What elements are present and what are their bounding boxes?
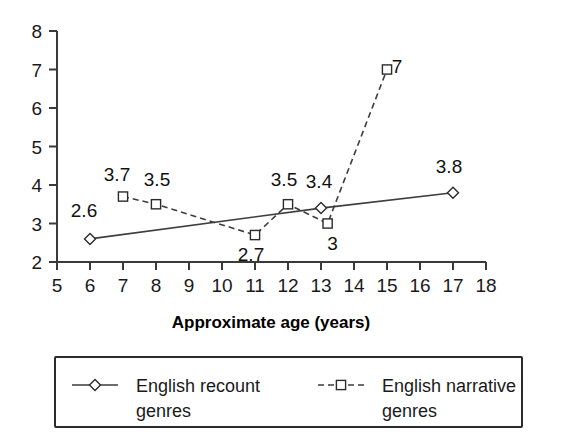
- data-point-value-label: 3.4: [306, 171, 333, 192]
- chart-container: 2345678 56789101112131415161718 2.63.43.…: [0, 0, 579, 445]
- x-tick-label: 16: [409, 275, 430, 296]
- y-tick-label: 6: [31, 98, 42, 119]
- x-tick-label: 9: [184, 275, 195, 296]
- x-tick-label: 17: [442, 275, 463, 296]
- x-tick-label: 8: [151, 275, 162, 296]
- data-point-value-label: 3.5: [144, 169, 170, 190]
- legend-label: genres: [382, 401, 437, 421]
- data-point-marker: [382, 65, 391, 74]
- data-point-marker: [118, 192, 127, 201]
- data-point-marker: [323, 219, 332, 228]
- legend-label: English recount: [136, 376, 260, 396]
- y-tick-label: 8: [31, 21, 42, 42]
- y-tick-label: 7: [31, 60, 42, 81]
- x-tick-label: 18: [475, 275, 496, 296]
- data-point-value-label: 7: [392, 56, 403, 77]
- x-tick-label: 14: [343, 275, 365, 296]
- x-tick-label: 10: [211, 275, 232, 296]
- x-tick-label: 5: [52, 275, 63, 296]
- x-axis-title: Approximate age (years): [172, 313, 370, 332]
- y-tick-label: 5: [31, 137, 42, 158]
- x-tick-label: 7: [118, 275, 129, 296]
- y-tick-label: 2: [31, 252, 42, 273]
- x-tick-label: 13: [310, 275, 331, 296]
- data-point-value-label: 3.5: [271, 169, 297, 190]
- x-tick-label: 6: [85, 275, 96, 296]
- data-point-marker: [283, 200, 292, 209]
- data-point-value-label: 3: [327, 233, 338, 254]
- data-point-marker: [151, 200, 160, 209]
- legend-marker-square: [336, 380, 345, 389]
- x-tick-label: 11: [245, 275, 265, 296]
- data-point-value-label: 3.7: [104, 164, 130, 185]
- legend-label: genres: [136, 401, 191, 421]
- data-point-marker: [250, 230, 259, 239]
- x-tick-label: 15: [376, 275, 397, 296]
- data-point-value-label: 3.8: [436, 156, 462, 177]
- y-tick-label: 3: [31, 214, 42, 235]
- y-tick-label: 4: [31, 175, 42, 196]
- data-point-value-label: 2.7: [238, 244, 264, 265]
- x-tick-label: 12: [277, 275, 298, 296]
- line-chart: 2345678 56789101112131415161718 2.63.43.…: [0, 0, 579, 445]
- data-point-value-label: 2.6: [71, 200, 97, 221]
- legend-label: English narrative: [382, 376, 516, 396]
